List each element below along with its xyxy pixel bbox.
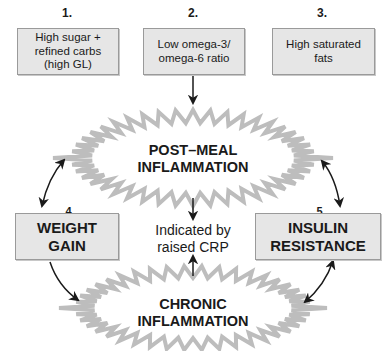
factor-2-number: 2. <box>178 6 208 20</box>
arrow-weight-gain-to-chronic <box>50 262 78 300</box>
factor-1-number: 1. <box>52 6 82 20</box>
arrow-insulin-resistance-chronic <box>305 261 333 302</box>
factor-3-number: 3. <box>307 6 337 20</box>
arrow-post-meal-insulin-resistance <box>322 161 340 206</box>
arrow-post-meal-weight-gain <box>42 160 64 206</box>
weight-gain-box: WEIGHT GAIN <box>15 213 119 260</box>
post-meal-inflammation-label: POST–MEAL INFLAMMATION <box>93 142 293 175</box>
chronic-inflammation-label: CHRONIC INFLAMMATION <box>93 296 293 329</box>
insulin-resistance-label: INSULIN RESISTANCE <box>270 219 366 255</box>
factor-1-label: High sugar + refined carbs (high GL) <box>35 31 101 72</box>
factor-box-omega-ratio: Low omega-3/ omega-6 ratio <box>143 28 245 75</box>
factor-3-label: High saturated fats <box>286 38 361 66</box>
weight-gain-label: WEIGHT GAIN <box>37 219 97 255</box>
crp-note: Indicated by raised CRP <box>133 222 253 256</box>
factor-box-saturated-fats: High saturated fats <box>272 28 375 75</box>
insulin-resistance-box: INSULIN RESISTANCE <box>255 213 381 260</box>
factor-box-high-sugar: High sugar + refined carbs (high GL) <box>17 28 119 75</box>
factor-2-label: Low omega-3/ omega-6 ratio <box>158 38 231 66</box>
